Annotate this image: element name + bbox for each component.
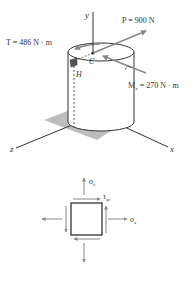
torque-t-label: T = 486 N · m <box>6 38 53 47</box>
x-axis-label: x <box>169 144 174 154</box>
z-axis <box>16 125 72 148</box>
mechanics-figure: z x H y C P = 900 N Mx = 270 N · m T = 4… <box>0 0 196 282</box>
y-axis-label: y <box>84 10 89 20</box>
tau-xy-label: τxy <box>103 192 111 202</box>
stress-element-square <box>71 203 102 235</box>
sigma-y-label: σy <box>89 177 96 187</box>
cylinder-top <box>68 43 134 61</box>
sigma-x-label: σx <box>130 215 137 225</box>
force-p-label: P = 900 N <box>122 16 155 25</box>
z-axis-label: z <box>9 144 14 154</box>
point-c-label: C <box>89 57 95 66</box>
moment-mx-label: Mx = 270 N · m <box>128 81 180 91</box>
